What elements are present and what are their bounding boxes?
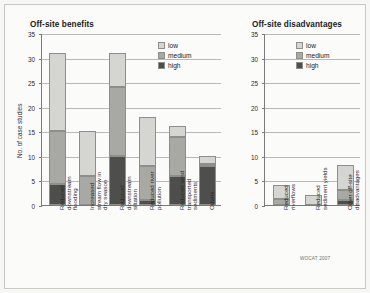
x-axis-label-line: dry season	[102, 172, 109, 210]
panel-off-site-disadvantages: Off-site disadvantages lowmediumhigh 051…	[238, 8, 366, 285]
legend-item-high[interactable]: high	[296, 56, 329, 64]
bar-stack[interactable]	[199, 33, 216, 205]
legend-swatch-high-icon	[296, 62, 303, 69]
y-axis-tick	[39, 59, 42, 60]
x-axis-category-label: Reduceddownstreamsiltation	[119, 176, 139, 210]
legend-item-low[interactable]: low	[158, 36, 191, 44]
y-axis-tick-label: 0	[238, 203, 258, 210]
x-axis-label-line: disadvantages	[354, 170, 361, 210]
y-axis-tick	[262, 132, 265, 133]
x-axis-label-line: flooding	[72, 176, 79, 210]
panel-title-left: Off-site benefits	[30, 20, 94, 29]
y-axis-tick-label: 5	[15, 178, 35, 185]
y-axis-tick	[39, 181, 42, 182]
bar-segment-low[interactable]	[79, 131, 96, 175]
y-axis-tick	[262, 83, 265, 84]
legend-label-high: high	[168, 62, 180, 69]
y-axis-tick-label: 15	[238, 129, 258, 136]
bar-segment-low[interactable]	[199, 156, 216, 164]
y-axis-tick-label: 30	[238, 55, 258, 62]
y-axis-tick	[39, 157, 42, 158]
legend-item-medium[interactable]: medium	[296, 46, 329, 54]
legend-item-high[interactable]: high	[158, 56, 191, 64]
x-axis-label-line: riverflows	[290, 184, 297, 210]
legend-left: lowmediumhigh	[158, 36, 191, 66]
chart-figure: Off-site benefits No. of case studies lo…	[0, 0, 370, 293]
y-axis-tick-label: 20	[15, 104, 35, 111]
bar-segment-low[interactable]	[139, 117, 156, 166]
bar-segment-medium[interactable]	[199, 164, 216, 166]
gridline	[42, 132, 221, 133]
x-axis-category-label: Reducedsediment yields	[315, 167, 328, 210]
legend-label-high: high	[306, 62, 318, 69]
y-axis-tick-label: 35	[238, 31, 258, 38]
legend-right: lowmediumhigh	[296, 36, 329, 66]
y-axis-tick	[39, 34, 42, 35]
y-axis-tick	[262, 181, 265, 182]
x-axis-category-label: Reducedriverflows	[283, 184, 296, 210]
bar-segment-low[interactable]	[109, 53, 126, 87]
y-axis-tick-label: 5	[238, 178, 258, 185]
x-axis-label-line: Others	[209, 191, 216, 210]
source-credit: WOCAT 2007	[300, 256, 330, 261]
bar-segment-low[interactable]	[49, 53, 66, 132]
y-axis-tick-label: 10	[15, 153, 35, 160]
bar-segment-medium[interactable]	[169, 137, 186, 175]
y-axis-tick	[262, 108, 265, 109]
gridline	[42, 59, 221, 60]
gridline	[42, 34, 221, 35]
y-axis-tick	[262, 34, 265, 35]
x-axis-category-label: Increasedstream flow indry season	[89, 172, 109, 210]
legend-swatch-high-icon	[158, 62, 165, 69]
y-axis-tick	[262, 59, 265, 60]
x-axis-category-label: Others	[209, 191, 216, 210]
gridline	[42, 157, 221, 158]
panel-title-right: Off-site disadvantages	[252, 20, 342, 29]
y-axis-tick-label: 10	[238, 153, 258, 160]
bar-segment-low[interactable]	[169, 126, 186, 137]
bar-stack[interactable]	[273, 33, 290, 205]
x-axis-category-label: Other off-sitedisadvantages	[347, 170, 360, 210]
y-axis-tick-label: 25	[15, 80, 35, 87]
y-axis-tick-label: 25	[238, 80, 258, 87]
x-axis-label-line: pollution	[156, 171, 163, 210]
y-axis-tick-label: 30	[15, 55, 35, 62]
y-axis-tick	[39, 206, 42, 207]
y-axis-tick	[262, 206, 265, 207]
y-axis-tick	[39, 108, 42, 109]
x-axis-label-line: siltation	[132, 176, 139, 210]
gridline	[42, 83, 221, 84]
x-axis-category-label: Reduced riverpollution	[149, 171, 162, 210]
y-axis-tick-label: 15	[15, 129, 35, 136]
y-axis-tick	[262, 157, 265, 158]
x-axis-label-line: sediments	[192, 171, 199, 210]
y-axis-tick-label: 0	[15, 203, 35, 210]
x-axis-category-label: Reduceddownstreamflooding	[59, 176, 79, 210]
y-axis-tick-label: 20	[238, 104, 258, 111]
legend-item-low[interactable]: low	[296, 36, 329, 44]
legend-item-medium[interactable]: medium	[158, 46, 191, 54]
y-axis-tick	[39, 83, 42, 84]
gridline	[42, 108, 221, 109]
y-axis-tick-label: 35	[15, 31, 35, 38]
x-axis-category-label: Reduced windtransportedsediments	[179, 171, 199, 210]
panel-off-site-benefits: Off-site benefits No. of case studies lo…	[8, 8, 230, 285]
y-axis-tick	[39, 132, 42, 133]
bar-segment-medium[interactable]	[109, 87, 126, 156]
x-axis-label-line: sediment yields	[322, 167, 329, 210]
